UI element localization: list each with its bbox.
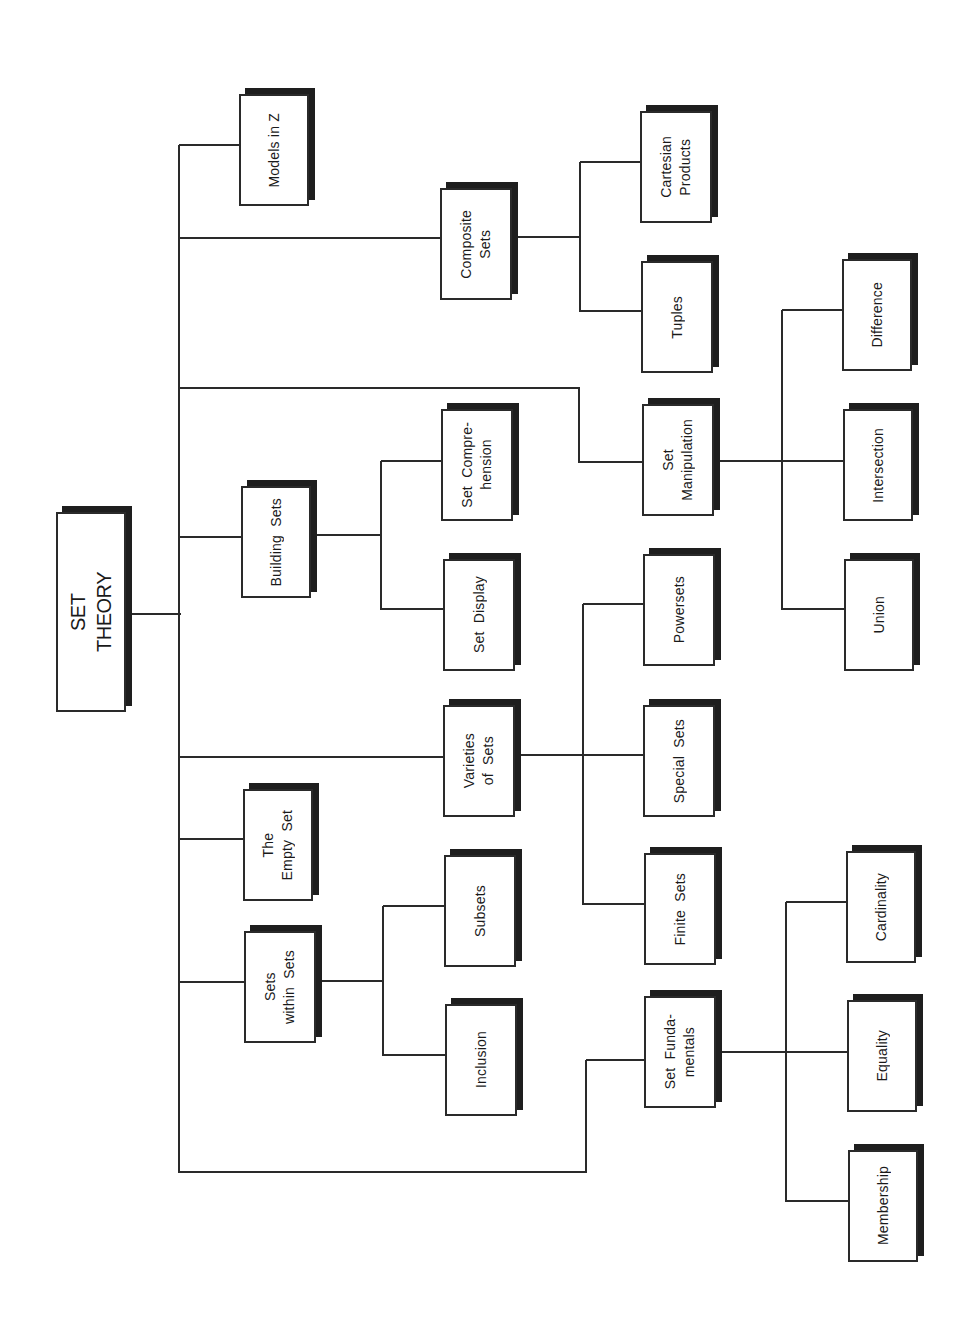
- node-box: Tuples: [641, 261, 713, 373]
- node-box: Powersets: [643, 554, 715, 666]
- connector-line: [583, 603, 643, 605]
- connector-line: [515, 754, 643, 756]
- node-label: Membership: [874, 1166, 893, 1245]
- connector-line: [126, 613, 181, 615]
- connector-line: [179, 536, 241, 538]
- connector-line: [178, 145, 180, 1173]
- node-label: Cardinality: [872, 873, 891, 941]
- node-box: Set Funda- mentals: [644, 996, 716, 1108]
- node-box: Composite Sets: [440, 188, 512, 300]
- node-box: Equality: [847, 1000, 917, 1112]
- connector-line: [179, 1171, 587, 1173]
- node-cartesian-products: Cartesian Products: [640, 111, 712, 223]
- node-label: Set Funda- mentals: [661, 1014, 699, 1089]
- node-models-in-z: Models in Z: [239, 94, 309, 206]
- node-box: Sets within Sets: [244, 931, 316, 1043]
- node-label: Difference: [868, 282, 887, 348]
- node-label: Varieties of Sets: [460, 733, 498, 788]
- connector-line: [716, 1051, 847, 1053]
- node-label: Building Sets: [267, 498, 286, 586]
- node-label: Union: [870, 596, 889, 634]
- node-box: Special Sets: [643, 705, 715, 817]
- node-difference: Difference: [842, 259, 912, 371]
- connector-line: [586, 1059, 644, 1061]
- connector-line: [580, 161, 640, 163]
- node-inclusion: Inclusion: [445, 1004, 517, 1116]
- node-set-manipulation: Set Manipulation: [642, 404, 714, 516]
- node-label: Inclusion: [472, 1031, 491, 1088]
- connector-line: [585, 1060, 587, 1173]
- node-box: Set Compre- hension: [441, 409, 513, 521]
- node-varieties-of-sets: Varieties of Sets: [443, 705, 515, 817]
- node-box: The Empty Set: [243, 789, 313, 901]
- connector-line: [714, 460, 843, 462]
- node-box: Union: [844, 559, 914, 671]
- node-label: Special Sets: [670, 719, 689, 803]
- node-label: Tuples: [668, 296, 687, 339]
- connector-line: [179, 387, 580, 389]
- node-label: Set Display: [470, 576, 489, 653]
- node-label: Equality: [873, 1030, 892, 1081]
- connector-line: [179, 981, 244, 983]
- connector-line: [316, 980, 384, 982]
- node-set-display: Set Display: [443, 559, 515, 671]
- node-special-sets: Special Sets: [643, 705, 715, 817]
- connector-line: [582, 604, 584, 905]
- connector-line: [382, 906, 384, 1056]
- node-composite-sets: Composite Sets: [440, 188, 512, 300]
- connector-line: [578, 388, 580, 463]
- connector-line: [782, 608, 844, 610]
- connector-line: [583, 903, 644, 905]
- node-box: Models in Z: [239, 94, 309, 206]
- node-label: Powersets: [670, 576, 689, 643]
- connector-line: [785, 902, 787, 1202]
- connector-line: [381, 608, 443, 610]
- connector-line: [179, 144, 239, 146]
- node-membership: Membership: [848, 1150, 918, 1262]
- node-box: Intersection: [843, 409, 913, 521]
- node-box: Finite Sets: [644, 853, 716, 965]
- node-label: The Empty Set: [259, 810, 297, 880]
- node-box: Subsets: [444, 855, 516, 967]
- connector-line: [580, 310, 641, 312]
- connector-line: [179, 237, 440, 239]
- connector-line: [782, 309, 842, 311]
- node-the-empty-set: The Empty Set: [243, 789, 313, 901]
- node-label: Set Compre- hension: [458, 422, 496, 508]
- node-equality: Equality: [847, 1000, 917, 1112]
- node-subsets: Subsets: [444, 855, 516, 967]
- node-powersets: Powersets: [643, 554, 715, 666]
- node-box: Set Manipulation: [642, 404, 714, 516]
- connector-line: [786, 901, 846, 903]
- node-label: Sets within Sets: [261, 950, 299, 1024]
- node-box: Inclusion: [445, 1004, 517, 1116]
- node-box: Set Display: [443, 559, 515, 671]
- connector-line: [381, 460, 441, 462]
- node-box: Membership: [848, 1150, 918, 1262]
- node-finite-sets: Finite Sets: [644, 853, 716, 965]
- node-label: Cartesian Products: [657, 136, 695, 198]
- connector-line: [383, 1054, 445, 1056]
- connector-line: [579, 461, 642, 463]
- node-box: Varieties of Sets: [443, 705, 515, 817]
- node-tuples: Tuples: [641, 261, 713, 373]
- set-theory-hierarchy-diagram: SET THEORY Models in Z Composite Sets Ca…: [0, 0, 976, 1333]
- node-intersection: Intersection: [843, 409, 913, 521]
- connector-line: [786, 1200, 848, 1202]
- connector-line: [179, 756, 443, 758]
- node-label: Composite Sets: [457, 210, 495, 279]
- connector-line: [380, 461, 382, 610]
- connector-line: [512, 236, 581, 238]
- node-set-theory: SET THEORY: [56, 512, 126, 712]
- node-box: Cartesian Products: [640, 111, 712, 223]
- node-building-sets: Building Sets: [241, 486, 311, 598]
- node-label: Models in Z: [265, 113, 284, 188]
- node-union: Union: [844, 559, 914, 671]
- node-label: Finite Sets: [671, 873, 690, 945]
- node-label: Intersection: [869, 428, 888, 503]
- connector-line: [383, 905, 444, 907]
- node-box: SET THEORY: [56, 512, 126, 712]
- connector-line: [311, 534, 382, 536]
- node-sets-within-sets: Sets within Sets: [244, 931, 316, 1043]
- node-label: SET THEORY: [65, 572, 117, 652]
